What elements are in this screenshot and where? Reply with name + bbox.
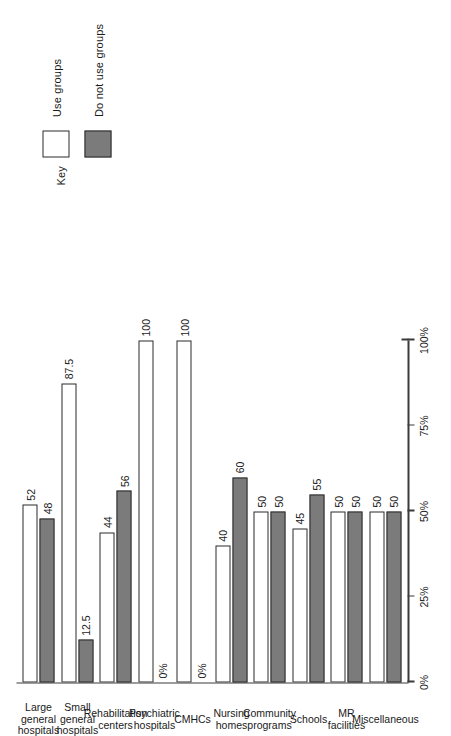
bar-do-not-use-groups: [78, 639, 93, 682]
bar-use-groups: [330, 511, 345, 682]
bar-do-not-use-groups: [386, 511, 401, 682]
bar-group: 5050: [330, 340, 362, 682]
bar-value-label: 50: [349, 495, 361, 507]
axis-tick-label: 75%: [417, 415, 429, 436]
axis-tick: [407, 595, 414, 597]
bar-value-label: 40: [216, 530, 228, 542]
bar-group: 87.512.5: [61, 340, 93, 682]
bar-value-label: 50: [370, 495, 382, 507]
bar-do-not-use-groups: [232, 477, 247, 682]
bar-do-not-use-groups: [116, 490, 131, 682]
bar-use-groups: [292, 528, 307, 682]
bar-group: 5050: [253, 340, 285, 682]
bar-use-groups: [369, 511, 384, 682]
bar-value-label: 50: [387, 495, 399, 507]
axis-tick-label: 0%: [417, 674, 429, 689]
bar-value-label: 60: [233, 461, 245, 473]
bar-use-groups: [99, 532, 114, 682]
bar-group: 4456: [99, 340, 131, 682]
bar-use-groups: [138, 340, 153, 682]
bar-do-not-use-groups: [347, 511, 362, 682]
bar-value-label: 45: [293, 512, 305, 524]
bar-group: 5050: [369, 340, 401, 682]
bar-group: 5248: [22, 340, 54, 682]
axis-tick: [407, 339, 414, 341]
bar-value-label: 50: [332, 495, 344, 507]
axis-tick-label: 100%: [417, 327, 429, 354]
bar-group: 4060: [215, 340, 247, 682]
bar-value-label: 50: [272, 495, 284, 507]
bar-value-label: 48: [41, 502, 53, 514]
bar-value-label: 44: [101, 516, 113, 528]
bar-value-label: 50: [255, 495, 267, 507]
bar-group: 4555: [292, 340, 324, 682]
bar-value-label: 0%: [156, 663, 168, 678]
bar-value-label: 52: [24, 488, 36, 500]
bar-do-not-use-groups: [39, 518, 54, 682]
bar-value-label: 87.5: [62, 358, 74, 378]
bar-value-label: 56: [118, 475, 130, 487]
bar-use-groups: [176, 340, 191, 682]
axis-tick: [407, 681, 414, 683]
bar-use-groups: [215, 545, 230, 682]
axis-tick: [407, 510, 414, 512]
category-label: Miscellaneous: [350, 713, 420, 725]
bar-value-label: 55: [310, 478, 322, 490]
bar-group: 1000%: [176, 340, 208, 682]
bar-do-not-use-groups: [309, 494, 324, 682]
bar-use-groups: [22, 504, 37, 682]
bar-value-label: 100: [139, 318, 151, 336]
bar-value-label: 100: [178, 318, 190, 336]
axis-tick-label: 25%: [417, 586, 429, 607]
bar-group: 1000%: [138, 340, 170, 682]
bar-value-label: 12.5: [79, 615, 91, 635]
axis-tick: [407, 424, 414, 426]
bar-value-label: 0%: [195, 663, 207, 678]
bar-use-groups: [61, 383, 76, 682]
bar-use-groups: [253, 511, 268, 682]
axis-tick-label: 50%: [417, 500, 429, 521]
bar-do-not-use-groups: [270, 511, 285, 682]
